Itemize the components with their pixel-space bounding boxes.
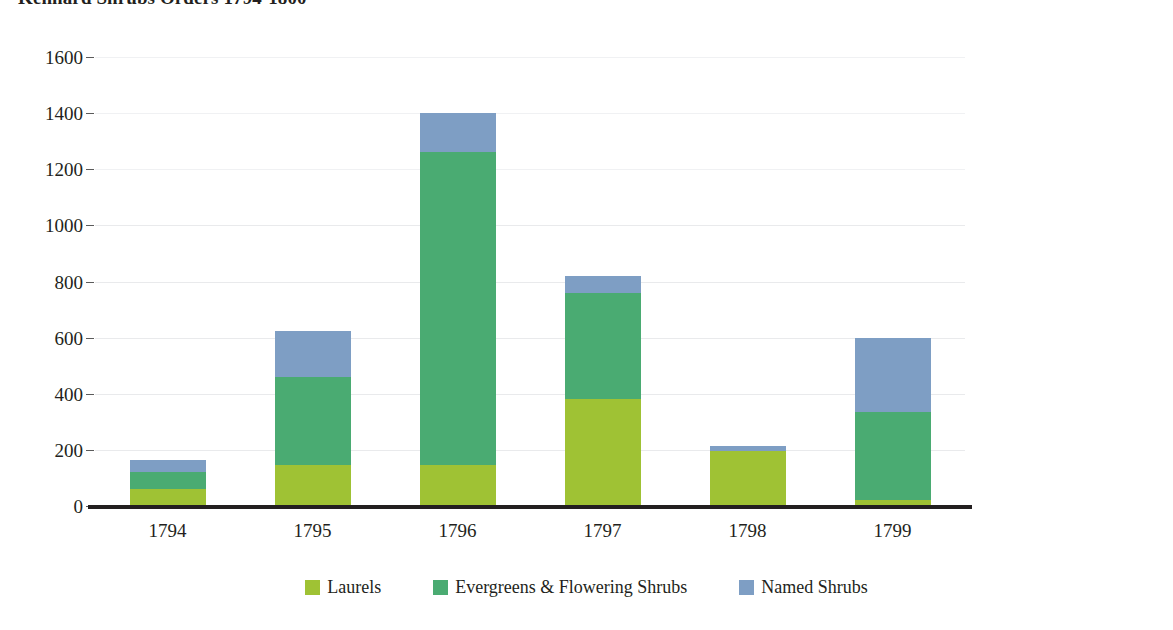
x-tick-label-1794: 1794 — [98, 520, 238, 542]
stacked-bar-chart: Kennard Shrubs Orders 1794-1800 16001400… — [0, 0, 1173, 630]
y-tick-mark — [86, 113, 94, 114]
gridline — [95, 394, 965, 395]
legend-label: Named Shrubs — [761, 578, 868, 596]
legend-item-evergreens-flowering-shrubs[interactable]: Evergreens & Flowering Shrubs — [433, 578, 687, 596]
y-tick-mark — [86, 169, 94, 170]
bar-segment-1795-evergreens-flowering-shrubs[interactable] — [275, 377, 351, 465]
bar-segment-1794-evergreens-flowering-shrubs[interactable] — [130, 472, 206, 489]
x-tick-label-1796: 1796 — [388, 520, 528, 542]
bar-group-1795[interactable] — [275, 331, 351, 506]
bar-group-1796[interactable] — [420, 113, 496, 506]
bar-segment-1798-named-shrubs[interactable] — [710, 446, 786, 452]
bar-segment-1795-laurels[interactable] — [275, 465, 351, 506]
gridline — [95, 450, 965, 451]
bar-group-1798[interactable] — [710, 446, 786, 506]
chart-title: Kennard Shrubs Orders 1794-1800 — [18, 0, 307, 9]
y-tick-label: 1200 — [13, 160, 83, 179]
bar-group-1794[interactable] — [130, 460, 206, 506]
chart-legend: LaurelsEvergreens & Flowering ShrubsName… — [0, 578, 1173, 596]
bar-segment-1799-named-shrubs[interactable] — [855, 338, 931, 412]
y-tick-mark — [86, 394, 94, 395]
x-tick-label-1798: 1798 — [678, 520, 818, 542]
bar-segment-1795-named-shrubs[interactable] — [275, 331, 351, 377]
y-tick-label: 400 — [13, 384, 83, 403]
bar-segment-1794-laurels[interactable] — [130, 489, 206, 506]
y-tick-label: 1000 — [13, 216, 83, 235]
gridline — [95, 169, 965, 170]
bar-segment-1797-laurels[interactable] — [565, 399, 641, 506]
legend-swatch-laurels-icon — [305, 580, 320, 595]
y-tick-mark — [86, 57, 94, 58]
x-tick-label-1799: 1799 — [823, 520, 963, 542]
y-tick-mark — [86, 450, 94, 451]
legend-item-named-shrubs[interactable]: Named Shrubs — [739, 578, 868, 596]
legend-item-laurels[interactable]: Laurels — [305, 578, 381, 596]
bar-segment-1797-named-shrubs[interactable] — [565, 276, 641, 293]
gridline — [95, 57, 965, 58]
x-tick-label-1795: 1795 — [243, 520, 383, 542]
gridline — [95, 113, 965, 114]
y-tick-label: 1600 — [13, 48, 83, 67]
y-tick-label: 0 — [13, 497, 83, 516]
gridline — [95, 282, 965, 283]
bar-segment-1797-evergreens-flowering-shrubs[interactable] — [565, 293, 641, 400]
legend-swatch-named-icon — [739, 580, 754, 595]
bar-segment-1798-laurels[interactable] — [710, 451, 786, 506]
bar-segment-1796-laurels[interactable] — [420, 465, 496, 506]
y-tick-label: 800 — [13, 272, 83, 291]
y-tick-mark — [86, 338, 94, 339]
gridline — [95, 338, 965, 339]
x-tick-label-1797: 1797 — [533, 520, 673, 542]
y-tick-label: 1400 — [13, 104, 83, 123]
y-tick-label: 200 — [13, 440, 83, 459]
bar-segment-1796-evergreens-flowering-shrubs[interactable] — [420, 152, 496, 465]
y-tick-mark — [86, 282, 94, 283]
gridline — [95, 225, 965, 226]
bar-group-1799[interactable] — [855, 338, 931, 506]
legend-label: Laurels — [327, 578, 381, 596]
y-tick-label: 600 — [13, 328, 83, 347]
x-axis-line — [88, 505, 972, 509]
bar-segment-1794-named-shrubs[interactable] — [130, 460, 206, 473]
y-tick-mark — [86, 225, 94, 226]
bar-group-1797[interactable] — [565, 276, 641, 506]
plot-area — [95, 57, 965, 506]
bar-segment-1799-evergreens-flowering-shrubs[interactable] — [855, 412, 931, 500]
legend-label: Evergreens & Flowering Shrubs — [455, 578, 687, 596]
legend-swatch-evergreens-icon — [433, 580, 448, 595]
bar-segment-1796-named-shrubs[interactable] — [420, 113, 496, 152]
